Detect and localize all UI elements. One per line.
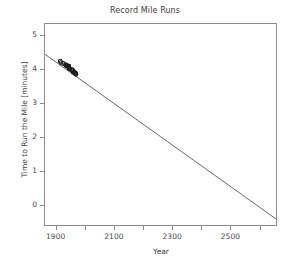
x-tick-mark	[230, 226, 231, 230]
y-tick-label: 3	[32, 98, 37, 107]
y-axis: Time to Run the Mile [minutes] 012345	[0, 23, 44, 227]
x-axis-title: Year	[44, 247, 278, 256]
chart-title: Record Mile Runs	[0, 6, 290, 15]
data-points	[58, 59, 77, 76]
x-tick-label: 2100	[98, 232, 130, 241]
x-tick-mark	[56, 226, 57, 230]
x-tick-label: 2500	[214, 232, 246, 241]
plot-area	[44, 23, 277, 226]
x-axis: Year 1900210023002500	[44, 226, 278, 264]
x-tick-mark	[114, 226, 115, 230]
y-tick-label: 4	[32, 64, 37, 73]
x-tick-mark	[260, 226, 261, 230]
y-tick-label: 5	[32, 30, 37, 39]
x-tick-label: 1900	[40, 232, 72, 241]
fit-line	[45, 54, 276, 219]
y-tick-label: 0	[32, 200, 37, 209]
chart-figure: Record Mile Runs Time to Run the Mile [m…	[0, 0, 290, 264]
plot-canvas	[45, 24, 276, 225]
x-tick-mark	[143, 226, 144, 230]
y-tick-label: 2	[32, 132, 37, 141]
x-tick-mark	[85, 226, 86, 230]
x-tick-label: 2300	[156, 232, 188, 241]
x-tick-mark	[172, 226, 173, 230]
regression-line	[45, 54, 276, 219]
y-axis-title: Time to Run the Mile [minutes]	[20, 40, 29, 200]
y-tick-label: 1	[32, 166, 37, 175]
x-tick-mark	[201, 226, 202, 230]
